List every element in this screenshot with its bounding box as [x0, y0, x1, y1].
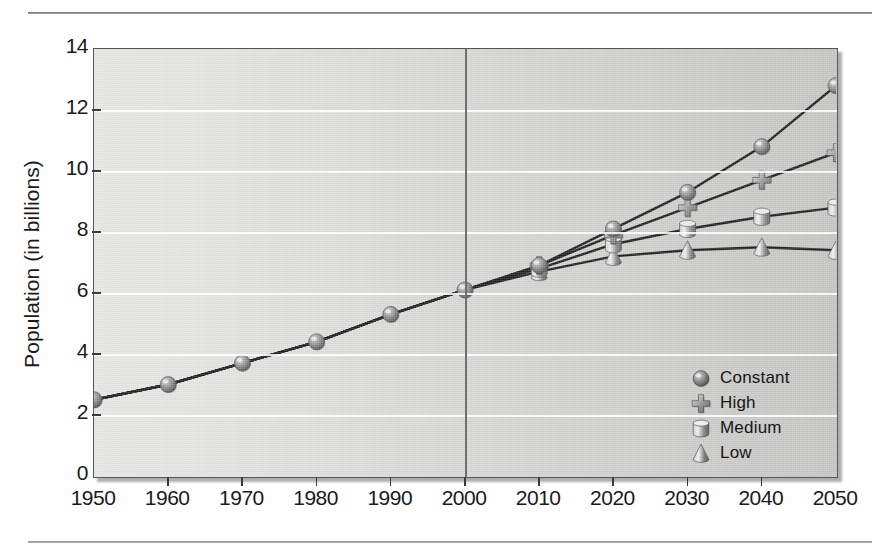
y-axis-tickmark: [92, 109, 101, 111]
y-axis-tick-label: 2: [42, 400, 88, 424]
y-axis-tick-label: 6: [42, 278, 88, 302]
legend-item[interactable]: Low: [690, 441, 840, 466]
x-axis-tick-label: 2010: [499, 486, 577, 510]
x-axis-tick-label: 1990: [351, 486, 429, 510]
y-axis-tick-label: 14: [42, 34, 88, 58]
x-axis-tick-label: 1980: [277, 486, 355, 510]
figure-container: 02468101214 1950196019701980199020002010…: [0, 0, 896, 549]
legend-item-label: Low: [720, 441, 752, 464]
y-axis-tickmark: [92, 231, 101, 233]
x-axis-tickmark: [612, 477, 614, 486]
legend-item-label: Constant: [720, 366, 790, 389]
x-axis-tick-label: 1960: [128, 486, 206, 510]
y-axis-tick-label: 12: [42, 95, 88, 119]
x-axis-tickmark: [316, 477, 318, 486]
y-axis-tick-label: 0: [42, 461, 88, 485]
x-axis-tickmark: [241, 477, 243, 486]
chart-legend: ConstantHighMediumLow: [690, 366, 840, 466]
y-axis-tick-label: 8: [42, 217, 88, 241]
legend-item-label: High: [720, 391, 756, 414]
x-axis-tickmark: [167, 477, 169, 486]
legend-item[interactable]: Constant: [690, 366, 840, 391]
x-axis-tick-label: 1970: [202, 486, 280, 510]
y-axis-tickmark: [92, 353, 101, 355]
cone-marker-icon: [690, 443, 712, 464]
y-axis-tick-label: 4: [42, 339, 88, 363]
x-axis-tick-label: 2030: [648, 486, 726, 510]
population-projection-chart: 02468101214 1950196019701980199020002010…: [0, 0, 896, 549]
y-axis-tick-label: 10: [42, 156, 88, 180]
legend-item-label: Medium: [720, 416, 782, 439]
y-axis-tickmark: [92, 414, 101, 416]
y-axis-title: Population (in billions): [20, 64, 44, 464]
y-axis-tickmark: [92, 170, 101, 172]
x-axis-tick-label: 2050: [796, 486, 874, 510]
x-axis-tick-label: 2040: [722, 486, 800, 510]
x-axis-tickmark: [538, 477, 540, 486]
x-axis-tickmark: [687, 477, 689, 486]
x-axis-tick-label: 1950: [54, 486, 132, 510]
legend-item[interactable]: High: [690, 391, 840, 416]
x-axis-tick-label: 2020: [573, 486, 651, 510]
cross-marker-icon: [690, 393, 712, 414]
cylinder-marker-icon: [690, 418, 712, 439]
x-axis-tickmark: [390, 477, 392, 486]
x-axis-tickmark: [464, 477, 466, 486]
sphere-marker-icon: [690, 368, 712, 389]
x-axis-tickmark: [761, 477, 763, 486]
x-axis-tick-label: 2000: [425, 486, 503, 510]
projection-divider-line: [465, 49, 467, 477]
y-axis-tickmark: [92, 292, 101, 294]
legend-item[interactable]: Medium: [690, 416, 840, 441]
